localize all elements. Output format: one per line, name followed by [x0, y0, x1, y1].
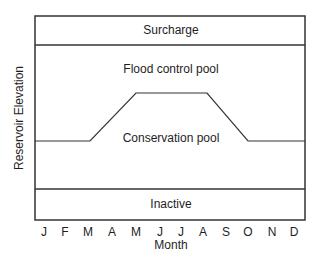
y-axis-label: Reservoir Elevation [12, 66, 26, 170]
month-tick: S [222, 225, 230, 239]
month-tick: J [41, 225, 47, 239]
month-tick: A [108, 225, 116, 239]
x-axis-label: Month [154, 238, 187, 252]
flood-control-label: Flood control pool [123, 62, 218, 76]
month-tick: J [157, 225, 163, 239]
month-tick: M [83, 225, 93, 239]
month-tick: N [268, 225, 277, 239]
month-tick: O [243, 225, 252, 239]
month-tick: J [178, 225, 184, 239]
month-tick: M [131, 225, 141, 239]
month-tick: F [61, 225, 68, 239]
month-tick: D [290, 225, 299, 239]
conservation-label: Conservation pool [123, 131, 220, 145]
month-tick: A [199, 225, 207, 239]
surcharge-label: Surcharge [143, 23, 198, 37]
inactive-label: Inactive [150, 197, 191, 211]
